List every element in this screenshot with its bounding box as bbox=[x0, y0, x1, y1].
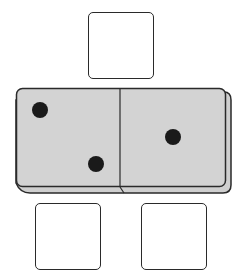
answer-box-bottom-right[interactable] bbox=[141, 203, 207, 270]
domino-face bbox=[17, 89, 226, 187]
pip-left-1 bbox=[32, 102, 48, 118]
pip-right-1 bbox=[165, 129, 181, 145]
answer-box-bottom-left[interactable] bbox=[35, 203, 101, 270]
pip-left-2 bbox=[88, 156, 104, 172]
